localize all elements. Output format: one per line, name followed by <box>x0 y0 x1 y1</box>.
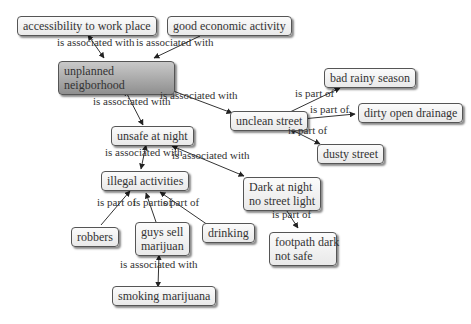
node-text-line: no street light <box>249 194 315 208</box>
link-label: is associated with <box>120 258 198 270</box>
link-label: is part of <box>160 196 199 208</box>
link-label: is associated with <box>136 36 214 48</box>
node-unsafe-at-night[interactable]: unsafe at night <box>111 126 194 146</box>
link-label: is associated with <box>172 149 250 161</box>
node-dusty-street[interactable]: dusty street <box>317 144 384 164</box>
link-label: is part of <box>288 124 327 136</box>
node-dirty-open-drainage[interactable]: dirty open drainage <box>358 103 463 123</box>
link-label: is part of <box>295 87 334 99</box>
node-guys-sell-marijuan[interactable]: guys sell marijuan <box>135 222 190 256</box>
link-label: is part of <box>97 196 136 208</box>
node-text-line: neigborhood <box>64 78 169 92</box>
node-dark-at-night[interactable]: Dark at night no street light <box>243 177 321 211</box>
node-robbers[interactable]: robbers <box>71 227 119 247</box>
link-label: is associated with <box>160 89 238 101</box>
node-accessibility-to-work-place[interactable]: accessibility to work place <box>17 16 157 36</box>
link-label: is associated with <box>93 95 171 107</box>
node-smoking-marijuana[interactable]: smoking marijuana <box>112 286 216 306</box>
link-label: is associated with <box>105 146 183 158</box>
node-text-line: guys sell <box>141 225 184 239</box>
node-illegal-activities[interactable]: illegal activities <box>101 171 189 191</box>
node-drinking[interactable]: drinking <box>202 223 255 243</box>
node-text-line: footpath dark <box>275 235 331 249</box>
node-text-line: unplanned <box>64 64 169 78</box>
node-text-line: Dark at night <box>249 180 315 194</box>
node-bad-rainy-season[interactable]: bad rainy season <box>324 68 416 88</box>
node-unplanned-neighborhood[interactable]: unplanned neigborhood <box>58 61 175 95</box>
node-text-line: marijuan <box>141 239 184 253</box>
node-good-economic-activity[interactable]: good economic activity <box>167 16 292 36</box>
node-text-line: not safe <box>275 249 331 263</box>
connection-lines <box>0 0 471 324</box>
node-footpath-dark-not-safe[interactable]: footpath dark not safe <box>269 232 337 266</box>
link-label: is part of <box>272 208 311 220</box>
link-label: is part of <box>310 103 349 115</box>
link-label: is associated with <box>57 36 135 48</box>
